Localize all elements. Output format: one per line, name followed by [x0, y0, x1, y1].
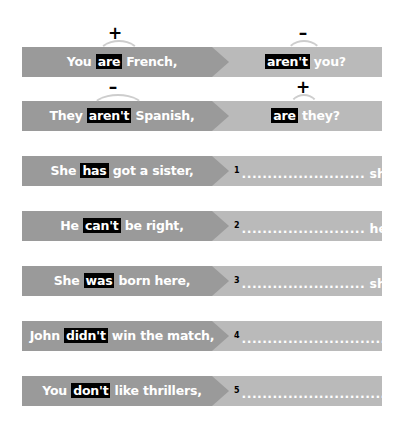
blank-dots: ........................ — [242, 276, 366, 291]
minus-icon: – — [295, 26, 311, 40]
blank-dots: ............................... — [242, 331, 402, 346]
verb-highlight: didn't — [64, 328, 108, 343]
question-number: 2 — [234, 221, 240, 230]
plus-icon: + — [295, 80, 311, 94]
statement-text: John didn't win the match, — [22, 321, 222, 351]
blank-dots: ........................ — [242, 166, 366, 181]
example-row-2: They aren't Spanish, are they? — [22, 101, 382, 131]
answer-blank[interactable]: 2........................ he? — [234, 211, 378, 241]
minus-icon: – — [105, 80, 121, 94]
blank-dots: ............................... — [242, 386, 402, 401]
plus-icon: + — [107, 26, 123, 40]
statement-text: He can't be right, — [22, 211, 222, 241]
verb-highlight: aren't — [87, 108, 132, 123]
verb-highlight: are — [96, 54, 122, 69]
answer-blank[interactable]: 1........................ she? — [234, 156, 378, 186]
question-number: 3 — [234, 276, 240, 285]
statement-text: She has got a sister, — [22, 156, 222, 186]
exercise-row-1: She has got a sister, 1.................… — [22, 156, 382, 186]
question-number: 1 — [234, 166, 240, 175]
statement-text: She was born here, — [22, 266, 222, 296]
answer-blank[interactable]: 5...............................? — [234, 376, 378, 406]
question-number: 5 — [234, 386, 240, 395]
verb-highlight: has — [80, 163, 108, 178]
verb-highlight: aren't — [265, 54, 310, 69]
answer-blank[interactable]: 4...............................? — [234, 321, 378, 351]
exercise-row-5: You don't like thrillers, 5.............… — [22, 376, 382, 406]
exercise-row-2: He can't be right, 2....................… — [22, 211, 382, 241]
tag-ending: she? — [365, 276, 401, 291]
verb-highlight: don't — [71, 383, 110, 398]
exercise-row-4: John didn't win the match, 4............… — [22, 321, 382, 351]
verb-highlight: can't — [83, 218, 121, 233]
arc-icon — [90, 94, 146, 110]
blank-dots: ........................ — [242, 221, 366, 236]
tag-ending: he? — [365, 221, 394, 236]
verb-highlight: was — [84, 273, 115, 288]
tag-ending: she? — [365, 166, 401, 181]
verb-highlight: are — [271, 108, 297, 123]
exercise-row-3: She was born here, 3....................… — [22, 266, 382, 296]
statement-text: You don't like thrillers, — [22, 376, 222, 406]
question-number: 4 — [234, 331, 240, 340]
example-row-1: You are French, aren't you? — [22, 47, 382, 77]
answer-blank[interactable]: 3........................ she? — [234, 266, 378, 296]
